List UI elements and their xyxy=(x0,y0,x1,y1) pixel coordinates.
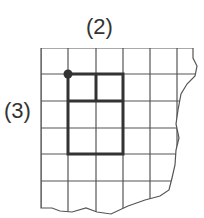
grid-figure xyxy=(0,0,204,218)
corner-dot xyxy=(64,70,73,79)
